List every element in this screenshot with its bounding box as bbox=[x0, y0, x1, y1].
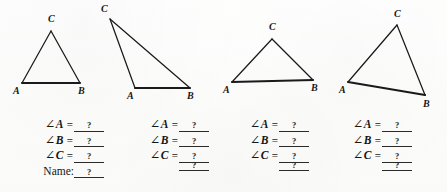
answers-column-2-row-3-label: ∠C= bbox=[143, 145, 179, 163]
triangle-4-side-cb bbox=[397, 25, 425, 95]
answers-column-1-row-4-label: Name: bbox=[38, 161, 74, 179]
answers-column-1-row-2-answer-blank[interactable]: ? bbox=[74, 137, 104, 148]
answers-column-4-row-2: ∠B=? bbox=[346, 130, 412, 146]
answers-column-4: ∠A=?∠B=?∠C=?? bbox=[346, 114, 412, 176]
triangle-3 bbox=[232, 39, 313, 82]
answers-column-4-row-2-label-text: B bbox=[364, 134, 372, 146]
triangle-1-vertex-label-b: B bbox=[78, 86, 85, 96]
equals-sign: = bbox=[169, 118, 179, 130]
answers-column-1-row-1: ∠A=? bbox=[38, 114, 104, 130]
answers-column-2-row-1-answer-blank[interactable]: ? bbox=[179, 121, 209, 132]
answers-column-2-row-1-label-text: A bbox=[161, 118, 169, 130]
equals-sign: = bbox=[169, 149, 179, 161]
answers-column-4-row-4-answer-blank[interactable]: ? bbox=[382, 161, 412, 172]
equals-sign: = bbox=[169, 134, 179, 146]
equals-sign: = bbox=[64, 118, 74, 130]
answers-column-1-row-4-label-text: Name: bbox=[43, 165, 74, 177]
answers-column-2-row-1: ∠A=? bbox=[143, 114, 209, 130]
triangle-4-side-ac bbox=[348, 25, 397, 82]
triangle-3-side-ac bbox=[232, 39, 272, 82]
answers-column-4-row-2-answer-blank[interactable]: ? bbox=[382, 137, 412, 148]
answers-column-3-row-2-label-text: B bbox=[261, 134, 269, 146]
answers-column-3: ∠A=?∠B=?∠C=?? bbox=[243, 114, 309, 176]
equals-sign: = bbox=[372, 134, 382, 146]
answers-column-2-row-2-answer-blank[interactable]: ? bbox=[179, 137, 209, 148]
answers-column-1-row-3-answer-blank[interactable]: ? bbox=[74, 152, 104, 163]
equals-sign: = bbox=[269, 134, 279, 146]
triangle-2-vertex-label-c: C bbox=[101, 4, 108, 14]
answers-column-4-row-3: ∠C=? bbox=[346, 145, 412, 161]
answers-column-3-row-1: ∠A=? bbox=[243, 114, 309, 130]
answers-column-2: ∠A=?∠B=?∠C=?? bbox=[143, 114, 209, 176]
answers-column-4-row-3-label-text: C bbox=[364, 149, 372, 161]
triangle-1-side-ac bbox=[22, 31, 51, 83]
answers-column-3-row-4-answer-blank[interactable]: ? bbox=[279, 161, 309, 172]
answers-column-3-row-3-label-text: C bbox=[261, 149, 269, 161]
answers-column-2-row-3-label-text: C bbox=[161, 149, 169, 161]
equals-sign: = bbox=[64, 134, 74, 146]
answers-column-3-row-2: ∠B=? bbox=[243, 130, 309, 146]
answers-column-1-row-3: ∠C=? bbox=[38, 145, 104, 161]
answers-column-2-row-2: ∠B=? bbox=[143, 130, 209, 146]
answers-column-2-row-3: ∠C=? bbox=[143, 145, 209, 161]
triangle-2-vertex-label-b: B bbox=[187, 91, 194, 101]
answers-column-1-row-2: ∠B=? bbox=[38, 130, 104, 146]
answers-column-3-row-3: ∠C=? bbox=[243, 145, 309, 161]
angle-icon: ∠ bbox=[150, 148, 161, 162]
answers-column-4-row-1: ∠A=? bbox=[346, 114, 412, 130]
answers-column-1-row-4: Name:? bbox=[38, 161, 104, 177]
triangle-3-vertex-label-a: A bbox=[223, 85, 230, 95]
triangle-4 bbox=[348, 25, 425, 95]
answers-column-3-row-1-label-text: A bbox=[261, 118, 269, 130]
answers-column-1-row-2-label-text: B bbox=[56, 134, 64, 146]
triangle-1-side-cb bbox=[51, 31, 80, 83]
equals-sign: = bbox=[372, 149, 382, 161]
equals-sign: = bbox=[269, 149, 279, 161]
triangle-1-vertex-label-a: A bbox=[13, 86, 20, 96]
triangle-1 bbox=[22, 31, 80, 83]
triangle-4-side-ab bbox=[348, 82, 425, 95]
triangle-4-vertex-label-c: C bbox=[394, 9, 401, 19]
answers-column-1-row-1-label-text: A bbox=[56, 118, 64, 130]
angle-icon: ∠ bbox=[250, 148, 261, 162]
triangle-2 bbox=[110, 19, 190, 88]
answers-column-3-row-1-answer-blank[interactable]: ? bbox=[279, 121, 309, 132]
triangle-3-side-cb bbox=[272, 39, 313, 80]
answers-column-2-row-2-label-text: B bbox=[161, 134, 169, 146]
answers-column-1-row-3-label-text: C bbox=[56, 149, 64, 161]
triangle-3-vertex-label-c: C bbox=[269, 22, 276, 32]
answers-column-2-row-4-answer-blank[interactable]: ? bbox=[179, 161, 209, 172]
triangle-3-side-ab bbox=[232, 80, 313, 82]
answers-column-4-row-1-label-text: A bbox=[364, 118, 372, 130]
answers-column-3-row-2-answer-blank[interactable]: ? bbox=[279, 137, 309, 148]
triangle-figures bbox=[0, 0, 447, 115]
worksheet-page: ABCABCABCABC ∠A=?∠B=?∠C=?Name:?∠A=?∠B=?∠… bbox=[0, 0, 447, 192]
triangle-1-vertex-label-c: C bbox=[48, 14, 55, 24]
equals-sign: = bbox=[269, 118, 279, 130]
answers-column-4-row-3-label: ∠C= bbox=[346, 145, 382, 163]
answers-column-3-row-3-label: ∠C= bbox=[243, 145, 279, 163]
answers-column-1-row-1-answer-blank[interactable]: ? bbox=[74, 121, 104, 132]
answers-column-4-row-1-answer-blank[interactable]: ? bbox=[382, 121, 412, 132]
triangle-4-vertex-label-a: A bbox=[339, 85, 346, 95]
equals-sign: = bbox=[64, 149, 74, 161]
answers-column-1-row-4-answer-blank[interactable]: ? bbox=[74, 168, 104, 179]
angle-icon: ∠ bbox=[353, 148, 364, 162]
triangle-3-vertex-label-b: B bbox=[311, 83, 318, 93]
answers-area: ∠A=?∠B=?∠C=?Name:?∠A=?∠B=?∠C=??∠A=?∠B=?∠… bbox=[0, 114, 447, 192]
answers-column-1: ∠A=?∠B=?∠C=?Name:? bbox=[38, 114, 104, 176]
triangle-4-vertex-label-b: B bbox=[423, 99, 430, 109]
equals-sign: = bbox=[372, 118, 382, 130]
triangle-2-vertex-label-a: A bbox=[127, 91, 134, 101]
